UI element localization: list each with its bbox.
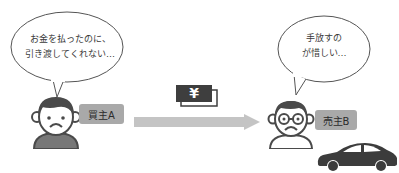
seller-speech-text: 手放すの が惜しい… — [284, 31, 364, 61]
car-icon — [315, 140, 399, 172]
seller-speech-line-2: が惜しい… — [284, 46, 364, 61]
seller-label: 売主B — [315, 110, 357, 130]
buyer-speech-text: お金を払ったのに、 引き渡してくれない… — [20, 32, 120, 62]
buyer-person-icon — [28, 93, 84, 149]
seller-person-icon — [263, 97, 319, 149]
transfer-arrow-icon — [134, 114, 262, 130]
buyer-label: 買主A — [79, 104, 124, 124]
yen-symbol: ¥ — [176, 84, 212, 102]
seller-speech-line-1: 手放すの — [284, 31, 364, 46]
buyer-speech-line-1: お金を払ったのに、 — [20, 32, 120, 47]
buyer-speech-line-2: 引き渡してくれない… — [20, 47, 120, 62]
